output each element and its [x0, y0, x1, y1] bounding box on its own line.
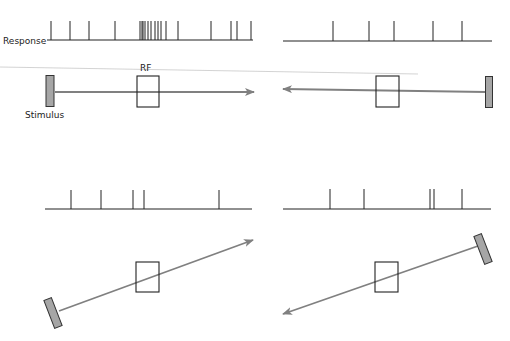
motion-arrow: [283, 89, 486, 92]
rf-label: RF: [140, 63, 151, 73]
panel-top-right-leftward: [283, 21, 493, 108]
motion-arrow: [59, 240, 253, 311]
motion-arrow: [283, 246, 478, 314]
stimulus-bar: [44, 298, 62, 329]
stimulus-bar: [486, 77, 493, 108]
receptive-field-direction-diagram: Response RF Stimulus: [0, 0, 510, 341]
response-label: Response: [3, 36, 47, 46]
stimulus-bar: [46, 76, 54, 107]
stimulus-bar: [474, 234, 492, 265]
panel-bottom-left-up-right: [44, 190, 253, 328]
panel-bottom-right-down-left: [283, 189, 492, 314]
guide-line: [0, 67, 418, 74]
stimulus-label: Stimulus: [25, 110, 64, 120]
receptive-field-box: [136, 262, 159, 292]
